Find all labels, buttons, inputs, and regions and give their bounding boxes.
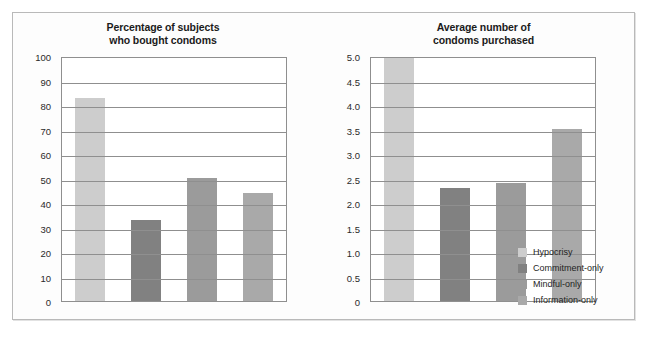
legend-swatch-icon [518,264,527,273]
y-axis-tick-label: 50 [40,175,57,186]
legend-label: Commitment-only [533,263,604,273]
y-axis-tick-label: 90 [40,77,57,88]
bar-group-percentage [62,58,286,301]
chart-legend: HypocrisyCommitment-onlyMindful-onlyInfo… [518,245,633,309]
gridline [62,107,286,108]
chart-title-percentage: Percentage of subjects who bought condom… [13,21,313,46]
chart-title-line-2: condoms purchased [331,34,636,47]
gridline [371,230,595,231]
legend-swatch-icon [518,248,527,257]
chart-title-line-1: Average number of [331,21,636,34]
gridline [62,279,286,280]
y-axis-tick-label: 100 [35,52,57,63]
y-axis-labels-average: 5.04.54.03.53.02.52.01.51.00.50 [313,57,366,302]
gridline [371,107,595,108]
y-axis-tick-label: 70 [40,126,57,137]
legend-label: Information-only [533,295,598,305]
y-axis-tick-label: 40 [40,199,57,210]
gridline [62,132,286,133]
y-axis-tick-label: 60 [40,150,57,161]
figure-frame: Percentage of subjects who bought condom… [12,12,635,320]
y-axis-tick-label: 3.5 [347,126,366,137]
gridline [371,83,595,84]
legend-item-commitment-only: Commitment-only [518,261,633,275]
y-axis-tick-label: 1.0 [347,248,366,259]
y-axis-tick-label: 0 [355,297,366,308]
legend-item-hypocrisy: Hypocrisy [518,245,633,259]
legend-item-information-only: Information-only [518,293,633,307]
y-axis-tick-label: 80 [40,101,57,112]
chart-panel-percentage: Percentage of subjects who bought condom… [13,13,313,319]
y-axis-tick-label: 4.5 [347,77,366,88]
gridline [62,254,286,255]
gridline [371,205,595,206]
y-axis-tick-label: 3.0 [347,150,366,161]
plot-area-percentage [61,57,287,302]
gridline [62,181,286,182]
gridline [62,83,286,84]
bar-hypocrisy [384,58,414,301]
bar-information-only [243,193,273,301]
bar-hypocrisy [75,98,105,301]
chart-title-line-1: Percentage of subjects [13,21,313,34]
y-axis-tick-label: 0.5 [347,273,366,284]
legend-label: Mindful-only [533,279,582,289]
gridline [371,181,595,182]
chart-title-line-2: who bought condoms [13,34,313,47]
y-axis-tick-label: 10 [40,273,57,284]
gridline [62,230,286,231]
legend-label: Hypocrisy [533,247,573,257]
gridline [62,205,286,206]
y-axis-tick-label: 20 [40,248,57,259]
gridline [371,132,595,133]
legend-item-mindful-only: Mindful-only [518,277,633,291]
y-axis-tick-label: 2.5 [347,175,366,186]
bar-mindful-only [187,178,217,301]
y-axis-tick-label: 2.0 [347,199,366,210]
bar-commitment-only [131,220,161,301]
y-axis-tick-label: 30 [40,224,57,235]
y-axis-tick-label: 1.5 [347,224,366,235]
chart-title-average: Average number of condoms purchased [313,21,636,46]
y-axis-labels-percentage: 1009080706050403020100 [13,57,57,302]
legend-swatch-icon [518,280,527,289]
legend-swatch-icon [518,296,527,305]
y-axis-tick-label: 5.0 [347,52,366,63]
gridline [62,156,286,157]
gridline [371,156,595,157]
y-axis-tick-label: 4.0 [347,101,366,112]
y-axis-tick-label: 0 [46,297,57,308]
